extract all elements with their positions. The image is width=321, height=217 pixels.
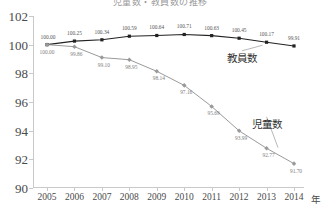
y-tick-label: 94 bbox=[15, 124, 28, 137]
data-point-marker bbox=[265, 41, 268, 44]
x-axis-unit-label: 年 bbox=[311, 192, 321, 206]
x-tick-label: 2009 bbox=[147, 192, 166, 202]
data-label: 100.00 bbox=[41, 35, 56, 40]
data-label: 92.77 bbox=[262, 154, 274, 159]
y-tick-label: 98 bbox=[15, 67, 28, 80]
data-label: 100.59 bbox=[122, 27, 137, 32]
y-tick-label: 102 bbox=[9, 10, 29, 23]
series-label-教員数: 教員数 bbox=[227, 49, 257, 64]
data-label: 91.70 bbox=[290, 169, 302, 174]
data-point-marker bbox=[155, 34, 158, 37]
data-label: 100.64 bbox=[149, 26, 164, 31]
x-tick-label: 2010 bbox=[175, 192, 194, 202]
data-point-marker bbox=[73, 39, 76, 42]
x-tick-label: 2006 bbox=[65, 192, 84, 202]
y-tick-label: 92 bbox=[15, 153, 28, 166]
plot-area: 9092949698100102 20052006200720082009201… bbox=[33, 16, 304, 188]
data-label: 100.71 bbox=[177, 25, 192, 30]
x-tick-label: 2011 bbox=[202, 192, 221, 202]
x-tick-label: 2012 bbox=[230, 192, 249, 202]
data-point-marker bbox=[183, 33, 186, 36]
x-tick-label: 2013 bbox=[257, 192, 276, 202]
data-point-marker bbox=[292, 161, 297, 166]
data-label: 100.45 bbox=[232, 29, 247, 34]
series-line-pupils bbox=[47, 45, 294, 164]
data-label: 100.63 bbox=[204, 26, 219, 31]
data-label: 100.25 bbox=[67, 31, 82, 36]
x-tick-label: 2008 bbox=[120, 192, 139, 202]
x-tick-label: 2005 bbox=[38, 192, 57, 202]
data-point-marker bbox=[292, 44, 295, 47]
data-label: 99.91 bbox=[288, 36, 300, 41]
data-label: 100.17 bbox=[259, 33, 274, 38]
data-point-marker bbox=[100, 55, 105, 60]
data-label: 99.86 bbox=[70, 52, 82, 57]
data-point-marker bbox=[128, 35, 131, 38]
y-tick-label: 100 bbox=[9, 38, 29, 51]
data-label: 98.95 bbox=[125, 65, 137, 70]
data-point-marker bbox=[100, 38, 103, 41]
data-point-marker bbox=[127, 57, 132, 62]
y-tick-label: 96 bbox=[15, 96, 28, 109]
x-tick-label: 2007 bbox=[92, 192, 111, 202]
data-point-marker bbox=[238, 37, 241, 40]
series-plot bbox=[33, 16, 304, 188]
series-line-teachers bbox=[47, 34, 294, 45]
x-tick-label: 2014 bbox=[285, 192, 304, 202]
data-label: 93.99 bbox=[235, 136, 247, 141]
data-label: 95.69 bbox=[208, 112, 220, 117]
data-point-marker bbox=[155, 69, 160, 74]
series-label-児童数: 児童数 bbox=[252, 115, 282, 130]
data-point-marker bbox=[210, 34, 213, 37]
data-label: 99.10 bbox=[98, 63, 110, 68]
data-point-marker bbox=[72, 44, 77, 49]
chart-title: 児童数・教員数の推移 bbox=[0, 0, 320, 8]
data-label: 100.00 bbox=[40, 50, 55, 55]
y-tick-mark bbox=[29, 188, 33, 189]
data-label: 97.16 bbox=[180, 91, 192, 96]
data-label: 98.14 bbox=[153, 77, 165, 82]
data-label: 100.34 bbox=[94, 30, 109, 35]
y-tick-label: 90 bbox=[15, 182, 28, 195]
